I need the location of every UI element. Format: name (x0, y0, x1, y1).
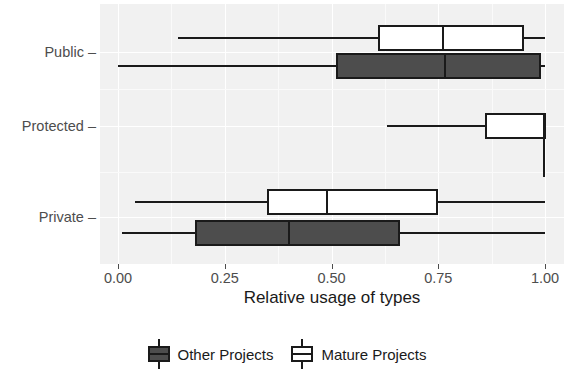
y-tick-label-public: Public – (0, 43, 96, 61)
y-tick-label-protected: Protected – (0, 117, 96, 135)
median-line (326, 189, 328, 215)
x-tick-label-0.50: 0.50 (317, 270, 345, 286)
legend-entry-other-projects[interactable]: Other Projects (146, 339, 274, 369)
x-tick-mark (332, 264, 333, 269)
x-tick-mark (118, 264, 119, 269)
legend-label: Other Projects (178, 346, 274, 363)
x-tick-mark (545, 264, 546, 269)
x-tick-label-1.00: 1.00 (531, 270, 559, 286)
legend: Other ProjectsMature Projects (0, 337, 572, 371)
y-axis: Public –Protected –Private – (0, 0, 96, 268)
legend-median (148, 353, 170, 355)
legend-swatch-boxplot-icon (146, 339, 172, 369)
x-tick-label-0.75: 0.75 (424, 270, 452, 286)
x-tick-mark (438, 264, 439, 269)
box (267, 189, 438, 215)
legend-label: Mature Projects (321, 346, 426, 363)
legend-swatch-boxplot-icon (289, 339, 315, 369)
plot-panel (100, 4, 564, 264)
legend-median (291, 353, 313, 355)
x-axis-title: Relative usage of types (100, 288, 564, 308)
protected-mature-tail (543, 139, 545, 177)
y-tick-label-private: Private – (0, 208, 96, 226)
x-tick-label-0.00: 0.00 (104, 270, 132, 286)
boxplot-chart: Public –Protected –Private – 0.000.250.5… (0, 0, 572, 374)
x-tick-mark (225, 264, 226, 269)
boxplot-private-mature (100, 4, 564, 264)
legend-entry-mature-projects[interactable]: Mature Projects (289, 339, 426, 369)
x-tick-label-0.25: 0.25 (211, 270, 239, 286)
